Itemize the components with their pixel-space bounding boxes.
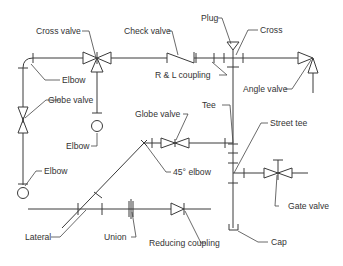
label-rl-coupling: R & L coupling [155, 70, 211, 80]
label-angle-valve: Angle valve [243, 84, 288, 94]
elbow-down-icon [18, 188, 29, 199]
cross-valve-icon [83, 52, 111, 72]
label-cap: Cap [271, 237, 287, 247]
label-tee: Tee [202, 100, 216, 110]
label-elbow-top: Elbow [62, 75, 86, 85]
label-cross: Cross [260, 25, 282, 35]
gate-valve-branch [233, 160, 308, 180]
diagonal-45-run [62, 143, 144, 228]
cross-fitting-icon [227, 50, 243, 68]
globe-valve-branch [141, 138, 233, 148]
plug-icon [227, 42, 239, 50]
label-globe-valve-mid: Globe valve [135, 109, 181, 119]
angle-valve-icon [298, 52, 318, 93]
reducing-coupling-icon [171, 203, 184, 215]
label-lateral: Lateral [25, 232, 51, 242]
label-cross-valve: Cross valve [36, 26, 81, 36]
label-globe-valve-left: Globe valve [48, 95, 94, 105]
left-vertical-run [18, 80, 29, 199]
label-plug: Plug [201, 13, 218, 23]
label-elbow-mid: Elbow [66, 141, 90, 151]
gate-valve-icon [264, 160, 292, 180]
label-reducing-coupling: Reducing coupling [149, 238, 220, 248]
globe-valve-horizontal-icon [161, 138, 189, 148]
label-check-valve: Check valve [124, 26, 171, 36]
bottom-pipe-run [28, 199, 211, 219]
label-street-tee: Street tee [270, 118, 307, 128]
elbow-turned-down-icon [92, 121, 103, 132]
label-elbow-45: 45° elbow [173, 167, 212, 177]
check-valve-icon [167, 52, 194, 63]
label-gate-valve: Gate valve [288, 201, 329, 211]
label-elbow-bottom: Elbow [44, 166, 68, 176]
globe-valve-vertical-icon [18, 107, 28, 133]
main-vertical-run [228, 68, 238, 230]
piping-diagram: Cross valve Check valve Plug Cross Elbow… [0, 0, 343, 266]
label-union: Union [104, 232, 127, 242]
